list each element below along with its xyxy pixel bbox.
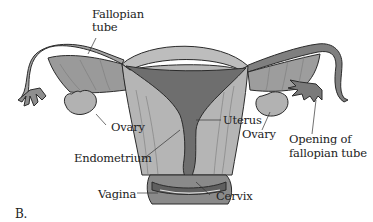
label-endometrium: Endometrium [74, 152, 152, 164]
leader-opening [312, 100, 316, 134]
left-mesosalpinx [48, 56, 126, 93]
label-vagina: Vagina [98, 188, 136, 200]
label-uterus: Uterus [223, 114, 262, 126]
label-ovary-right: Ovary [242, 128, 276, 140]
label-fallopian-tube-2: tube [92, 21, 117, 33]
label-cervix: Cervix [216, 190, 253, 202]
reproductive-anatomy-diagram [0, 0, 373, 222]
label-ovary-left: Ovary [111, 121, 145, 133]
label-fallopian-tube-1: Fallopian [92, 8, 144, 20]
left-fimbriae [18, 88, 46, 106]
right-fimbriae [288, 80, 322, 102]
left-ovary [64, 90, 96, 114]
label-opening-1: Opening of [289, 133, 351, 145]
leader-ovary-left [96, 114, 106, 125]
figure-caption: B. [15, 208, 27, 220]
label-opening-2: fallopian tube [289, 147, 367, 159]
